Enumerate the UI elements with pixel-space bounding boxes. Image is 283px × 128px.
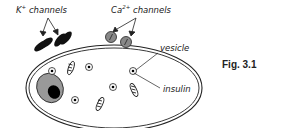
- insulin-label: insulin: [163, 85, 191, 94]
- k-channels-label: K+ channels: [16, 6, 67, 15]
- k-channels-text: channels: [26, 5, 67, 15]
- mitochondrion-icon: [66, 61, 76, 76]
- ca-channels-label: Ca2+ channels: [111, 6, 171, 15]
- ca-channel-icon: [106, 32, 117, 43]
- k-channel-arrows: [40, 18, 58, 36]
- insulin-pointer: [134, 73, 160, 88]
- k-channel-icon: [32, 36, 54, 54]
- k-charge-text: +: [22, 4, 27, 10]
- vesicle-pointer: [136, 53, 158, 70]
- insulin-icon: [51, 66, 135, 102]
- k-ion-text: K: [16, 5, 22, 15]
- figure-label: Fig. 3.1: [222, 59, 256, 70]
- mitochondrion-icon: [129, 83, 140, 98]
- ca-charge-text: 2+: [122, 4, 130, 10]
- ca-channel-arrows: [113, 18, 136, 36]
- ca-channel-icon: [121, 37, 132, 48]
- ca-channels-text: channels: [130, 5, 171, 15]
- vesicle-label: vesicle: [160, 44, 189, 53]
- nucleus-icon: [32, 69, 68, 107]
- mitochondrion-icon: [95, 97, 106, 112]
- ca-ion-text: Ca: [111, 5, 122, 15]
